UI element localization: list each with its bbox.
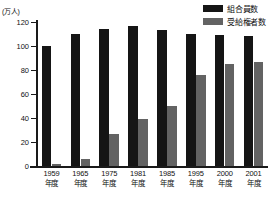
y-axis-tick-label: 60 xyxy=(1,90,29,99)
legend-label: 受給権者数 xyxy=(227,16,266,27)
x-label-year: 1985 xyxy=(153,169,182,179)
y-axis-tick xyxy=(31,166,37,167)
x-label-year: 2000 xyxy=(210,169,239,179)
bar-組合員数-2001 xyxy=(244,36,254,166)
x-axis-label-1965: 1965年度 xyxy=(66,169,95,188)
x-axis-label-2001: 2001年度 xyxy=(239,169,268,188)
bar-受給権者数-1965 xyxy=(81,159,91,166)
bar-組合員数-1981 xyxy=(128,26,138,166)
x-axis-label-1959: 1959年度 xyxy=(37,169,66,188)
x-label-year: 2001 xyxy=(239,169,268,179)
x-axis-label-1995: 1995年度 xyxy=(181,169,210,188)
bar-受給権者数-1981 xyxy=(138,119,148,166)
legend-label: 組合員数 xyxy=(227,3,258,14)
x-label-year: 1959 xyxy=(37,169,66,179)
x-axis-labels: 1959年度1965年度1975年度1981年度1985年度1995年度2000… xyxy=(37,169,268,195)
bar-受給権者数-1975 xyxy=(109,134,119,166)
x-label-year: 1981 xyxy=(124,169,153,179)
bar-組合員数-1959 xyxy=(42,46,52,166)
x-label-suffix: 年度 xyxy=(95,179,124,189)
x-label-suffix: 年度 xyxy=(210,179,239,189)
bar-chart: (万人) 020406080100120 1959年度1965年度1975年度1… xyxy=(0,0,271,197)
x-label-suffix: 年度 xyxy=(37,179,66,189)
bar-組合員数-2000 xyxy=(215,35,225,166)
x-label-suffix: 年度 xyxy=(181,179,210,189)
legend-item-受給権者数: 受給権者数 xyxy=(203,16,266,27)
y-axis-tick-label: 120 xyxy=(1,18,29,27)
bar-受給権者数-1985 xyxy=(167,106,177,166)
y-axis-tick-label: 40 xyxy=(1,114,29,123)
x-axis-label-1975: 1975年度 xyxy=(95,169,124,188)
x-axis-label-2000: 2000年度 xyxy=(210,169,239,188)
bar-組合員数-1965 xyxy=(71,34,81,166)
bar-受給権者数-2001 xyxy=(254,62,264,166)
y-axis-tick-label: 80 xyxy=(1,66,29,75)
x-label-suffix: 年度 xyxy=(153,179,182,189)
x-axis-label-1985: 1985年度 xyxy=(153,169,182,188)
plot-area xyxy=(37,22,268,166)
x-label-suffix: 年度 xyxy=(124,179,153,189)
legend-swatch-icon xyxy=(203,5,223,12)
y-axis-tick-label: 100 xyxy=(1,42,29,51)
x-label-year: 1995 xyxy=(181,169,210,179)
x-label-year: 1975 xyxy=(95,169,124,179)
x-axis-label-1981: 1981年度 xyxy=(124,169,153,188)
y-axis-tick-label: 0 xyxy=(1,162,29,171)
bar-組合員数-1975 xyxy=(99,29,109,166)
y-axis-unit-label: (万人) xyxy=(2,6,19,16)
x-label-year: 1965 xyxy=(66,169,95,179)
x-label-suffix: 年度 xyxy=(66,179,95,189)
bar-組合員数-1985 xyxy=(157,30,167,166)
x-label-suffix: 年度 xyxy=(239,179,268,189)
legend-item-組合員数: 組合員数 xyxy=(203,3,266,14)
chart-legend: 組合員数受給権者数 xyxy=(203,3,266,27)
bar-受給権者数-1995 xyxy=(196,75,206,166)
bar-組合員数-1995 xyxy=(186,34,196,166)
bar-受給権者数-2000 xyxy=(225,64,235,166)
x-axis-line xyxy=(30,166,268,168)
bar-受給権者数-1959 xyxy=(52,164,62,166)
y-axis-tick-label: 20 xyxy=(1,138,29,147)
legend-swatch-icon xyxy=(203,18,223,25)
